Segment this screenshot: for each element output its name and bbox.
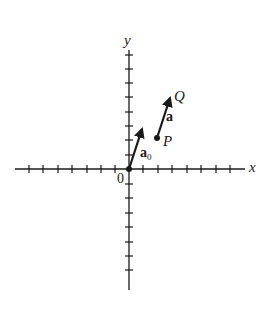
vector-a0-label-sub: 0 <box>147 152 152 162</box>
point-p-label: P <box>163 134 172 149</box>
origin-label: 0 <box>117 172 124 186</box>
vector-a0-label: a0 <box>140 146 152 162</box>
vector-a0-label-main: a <box>140 145 147 160</box>
vector-a-label: a <box>166 110 173 124</box>
vector-diagram: y x 0 a0 a P Q <box>0 0 269 309</box>
y-axis-label: y <box>124 33 131 48</box>
x-axis-label: x <box>249 160 256 175</box>
diagram-svg <box>0 0 269 309</box>
point-q-label: Q <box>174 89 185 104</box>
